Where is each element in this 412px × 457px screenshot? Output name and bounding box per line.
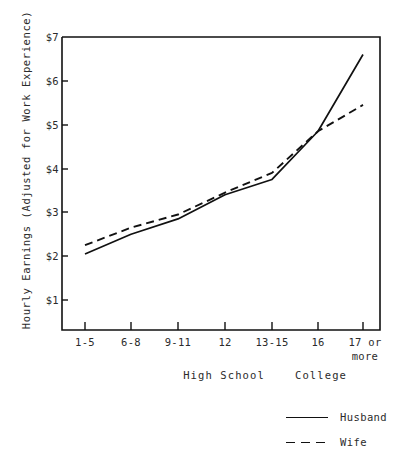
legend-line-solid-icon [286,412,328,422]
group-label-high-school: High School [183,369,265,381]
legend-label-husband: Husband [328,411,387,423]
plot-area [0,0,412,345]
x-tick-label-13-15: 13-15 [255,336,288,348]
y-axis-ticks [62,81,68,300]
x-tick-label-1-5: 1-5 [75,336,95,348]
legend-line-dashed-icon [286,437,328,447]
earnings-by-education-chart: Hourly Earnings (Adjusted for Work Exper… [0,0,412,457]
x-tick-label-16: 16 [311,336,324,348]
x-tick-label-12: 12 [218,336,231,348]
data-series-layer [85,55,363,254]
x-tick-label-17-or-more-line2: more [348,350,381,362]
axis-frame [62,37,380,330]
x-tick-label-17-or-more: 17 or more [348,336,381,362]
group-label-college: College [295,369,347,381]
legend-item-husband: Husband [286,404,412,429]
x-tick-label-9-11: 9-11 [165,336,192,348]
x-tick-label-6-8: 6-8 [121,336,141,348]
legend-label-wife: Wife [328,436,367,448]
x-tick-label-17-or-more-line1: 17 or [348,336,381,348]
legend: Husband Wife [286,404,412,454]
series-line-husband [85,55,363,254]
x-axis-ticks [85,322,363,330]
legend-item-wife: Wife [286,429,412,454]
